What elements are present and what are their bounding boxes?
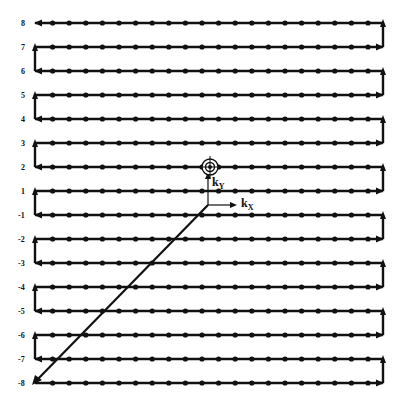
sample-point (150, 68, 155, 73)
sample-point (83, 92, 88, 97)
sample-point (249, 356, 254, 361)
sample-point (216, 92, 221, 97)
sample-point (282, 356, 287, 361)
sample-point (133, 236, 138, 241)
sample-point (67, 308, 72, 313)
sample-point (150, 332, 155, 337)
sample-point (349, 116, 354, 121)
sample-point (150, 356, 155, 361)
sample-point (183, 380, 188, 385)
sample-point (83, 284, 88, 289)
sample-point (67, 68, 72, 73)
sample-point (116, 140, 121, 145)
sample-point (332, 236, 337, 241)
sample-point (316, 140, 321, 145)
sample-point (100, 188, 105, 193)
sample-point (67, 44, 72, 49)
sample-point (199, 44, 204, 49)
sample-point (183, 212, 188, 217)
row-label: 2 (21, 163, 25, 172)
sample-point (316, 284, 321, 289)
sample-point (349, 356, 354, 361)
sample-point (365, 236, 370, 241)
sample-point (365, 20, 370, 25)
sample-point (50, 92, 55, 97)
row-label: -8 (18, 379, 25, 388)
sample-point (249, 20, 254, 25)
sample-point (365, 164, 370, 169)
sample-point (233, 308, 238, 313)
sample-point (183, 20, 188, 25)
sample-point (50, 260, 55, 265)
sample-point (249, 92, 254, 97)
sample-point (332, 284, 337, 289)
sample-point (316, 44, 321, 49)
sample-point (316, 332, 321, 337)
sample-point (116, 332, 121, 337)
sample-point (83, 380, 88, 385)
sample-point (299, 116, 304, 121)
sample-point (233, 188, 238, 193)
sample-point (116, 260, 121, 265)
sample-point (183, 260, 188, 265)
sample-point (282, 68, 287, 73)
sample-point (166, 68, 171, 73)
sample-point (332, 164, 337, 169)
sample-point (282, 116, 287, 121)
sample-point (233, 140, 238, 145)
sample-point (316, 68, 321, 73)
sample-point (349, 68, 354, 73)
sample-point (166, 212, 171, 217)
sample-point (100, 116, 105, 121)
sample-point (183, 116, 188, 121)
sample-point (266, 284, 271, 289)
sample-point (266, 20, 271, 25)
sample-point (67, 188, 72, 193)
sample-point (166, 164, 171, 169)
sample-point (67, 20, 72, 25)
row-label: -3 (18, 259, 25, 268)
sample-point (233, 116, 238, 121)
sample-point (332, 44, 337, 49)
sample-point (83, 116, 88, 121)
sample-point (183, 164, 188, 169)
sample-point (116, 116, 121, 121)
sample-point (282, 92, 287, 97)
sample-point (266, 260, 271, 265)
row-label: 8 (21, 19, 25, 28)
sample-point (50, 44, 55, 49)
sample-point (332, 92, 337, 97)
sample-point (150, 380, 155, 385)
sample-point (332, 308, 337, 313)
sample-point (133, 308, 138, 313)
sample-point (233, 332, 238, 337)
sample-point (349, 44, 354, 49)
sample-point (299, 68, 304, 73)
sample-point (199, 140, 204, 145)
sample-point (332, 332, 337, 337)
sample-point (50, 380, 55, 385)
sample-point (116, 212, 121, 217)
sample-point (183, 92, 188, 97)
sample-point (266, 188, 271, 193)
sample-point (133, 92, 138, 97)
sample-point (150, 20, 155, 25)
sample-point (50, 164, 55, 169)
sample-point (282, 380, 287, 385)
sample-point (216, 260, 221, 265)
sample-point (183, 308, 188, 313)
sample-point (249, 188, 254, 193)
sample-point (266, 140, 271, 145)
sample-point (100, 212, 105, 217)
sample-points (50, 20, 371, 385)
sample-point (83, 164, 88, 169)
sample-point (249, 44, 254, 49)
sample-point (249, 284, 254, 289)
sample-point (316, 236, 321, 241)
sample-point (50, 212, 55, 217)
sample-point (316, 212, 321, 217)
sample-point (166, 92, 171, 97)
sample-point (316, 380, 321, 385)
sample-point (133, 356, 138, 361)
row-labels: 87654321-1-2-3-4-5-6-7-8 (18, 19, 25, 388)
